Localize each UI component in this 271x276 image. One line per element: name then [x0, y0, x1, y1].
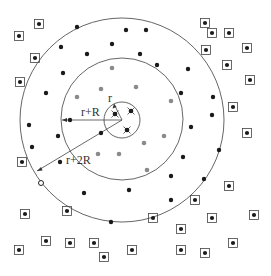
- black-node: [30, 145, 34, 149]
- gray-node: [134, 85, 139, 90]
- boxed-node: [229, 239, 238, 248]
- black-node: [202, 177, 206, 181]
- gray-node: [142, 141, 147, 146]
- black-node: [85, 52, 89, 56]
- boxed-node: [201, 19, 210, 28]
- label-r: r: [108, 91, 112, 105]
- black-node: [186, 67, 190, 71]
- boxed-node: [100, 253, 109, 262]
- boxed-node: [243, 44, 252, 53]
- black-node: [68, 118, 72, 122]
- boxed-node: [208, 214, 217, 223]
- boxed-node: [177, 225, 186, 234]
- black-node: [110, 42, 114, 46]
- black-node: [155, 63, 159, 67]
- boxed-node: [66, 239, 75, 248]
- black-node: [179, 91, 183, 95]
- gray-node: [145, 168, 150, 173]
- boxed-node: [229, 103, 238, 112]
- black-node: [181, 155, 185, 159]
- ring-diagram: r r+R r+2R: [0, 0, 271, 276]
- boxed-node: [225, 29, 234, 38]
- radius-dimensions: r r+R r+2R: [37, 91, 122, 171]
- black-node: [75, 25, 79, 29]
- black-node: [144, 28, 148, 32]
- black-node: [124, 28, 128, 32]
- black-node: [109, 220, 113, 224]
- black-node: [44, 91, 48, 95]
- gray-node: [110, 66, 115, 71]
- boxed-node: [16, 78, 25, 87]
- black-node: [138, 52, 142, 56]
- boxed-node: [250, 211, 259, 220]
- gray-node: [99, 87, 104, 92]
- radius-r-plus-2R-arrowhead: [37, 167, 43, 171]
- boxed-node: [90, 239, 99, 248]
- boxed-node: [202, 46, 211, 55]
- center-nodes: [112, 108, 135, 134]
- boxed-node: [21, 210, 30, 219]
- gray-node: [96, 152, 101, 157]
- open-nodes: [39, 181, 44, 186]
- black-node: [217, 148, 221, 152]
- black-node: [59, 45, 63, 49]
- black-node: [27, 123, 31, 127]
- gray-node: [75, 95, 80, 100]
- black-node: [61, 71, 65, 75]
- black-node: [99, 131, 103, 135]
- boxed-node: [243, 129, 252, 138]
- black-node: [211, 95, 215, 99]
- black-node: [56, 134, 60, 138]
- black-node: [169, 174, 173, 178]
- boxed-node: [42, 237, 51, 246]
- label-r-plus-2R: r+2R: [66, 153, 91, 167]
- boxed-node: [128, 246, 137, 255]
- black-node: [169, 198, 173, 202]
- boxed-node: [246, 76, 255, 85]
- gray-node: [169, 99, 174, 104]
- boxed-node: [18, 158, 27, 167]
- black-node: [210, 113, 214, 117]
- radius-r-plus-R-arrowhead: [62, 118, 67, 122]
- boxed-node: [201, 249, 210, 258]
- gray-node: [162, 134, 167, 139]
- gray-node: [117, 152, 122, 157]
- boxed-node: [225, 182, 234, 191]
- center-node: [124, 127, 131, 134]
- black-node: [58, 160, 62, 164]
- center-node: [128, 108, 135, 115]
- boxed-node: [15, 246, 24, 255]
- center-node: [112, 111, 119, 118]
- black-node: [189, 125, 193, 129]
- boxed-node: [208, 29, 217, 38]
- black-node: [82, 191, 86, 195]
- boxed-node: [15, 32, 24, 41]
- boxed-node: [223, 61, 232, 70]
- label-r-plus-R: r+R: [81, 105, 100, 119]
- boxed-node: [177, 246, 186, 255]
- open-node: [39, 181, 44, 186]
- boxed-node: [35, 20, 44, 29]
- black-node: [127, 188, 131, 192]
- boxed-node: [191, 196, 200, 205]
